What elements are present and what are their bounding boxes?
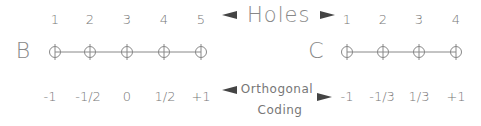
b-hole-number: 1 (51, 12, 59, 27)
c-coding-value: -1 (341, 89, 354, 104)
arrow-right-icon (320, 11, 335, 19)
b-coding-value: +1 (191, 89, 210, 104)
c-hole-number: 4 (452, 12, 460, 27)
c-hole-number: 3 (415, 12, 423, 27)
factor-c-label: C (308, 38, 323, 63)
b-coding-value: -1/2 (75, 89, 101, 104)
b-hole-number: 3 (123, 12, 131, 27)
b-coding-value: 0 (123, 89, 131, 104)
b-hole-number: 4 (160, 12, 168, 27)
b-hole-number: 5 (197, 12, 205, 27)
c-coding-value: -1/3 (369, 89, 395, 104)
diagram-graphics (0, 0, 481, 126)
b-coding-value: 1/2 (155, 89, 176, 104)
c-hole-number: 2 (379, 12, 387, 27)
orthogonal-label: Orthogonal (241, 82, 313, 96)
b-coding-value: -1 (44, 89, 57, 104)
arrow-left-icon (222, 11, 237, 19)
c-coding-value: 1/3 (409, 89, 430, 104)
coding-label: Coding (258, 103, 303, 117)
b-hole-number: 2 (86, 12, 94, 27)
c-hole-number: 1 (343, 12, 351, 27)
arrow-left-icon (222, 86, 237, 94)
factor-b-label: B (16, 38, 30, 63)
arrow-right-icon (317, 93, 332, 101)
c-coding-value: +1 (446, 89, 465, 104)
holes-label: Holes (247, 3, 310, 27)
